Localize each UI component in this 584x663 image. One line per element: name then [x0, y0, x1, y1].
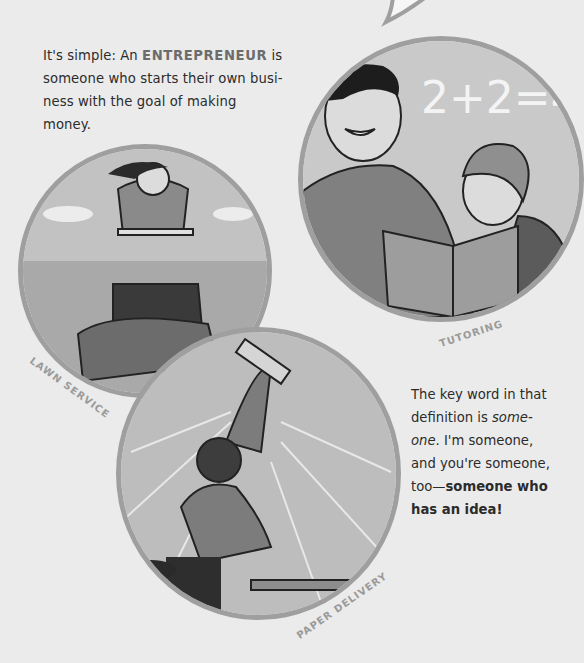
outro-paragraph: The key word in that definition is some-…: [411, 383, 561, 521]
tutoring-label: TUTORING: [438, 318, 504, 349]
paper-delivery-illustration: [116, 327, 401, 620]
entrepreneur-term: ENTREPRENEUR: [142, 48, 267, 63]
intro-paragraph: It's simple: An ENTREPRENEUR is someone …: [43, 44, 283, 136]
math-equation: 2+2=4: [421, 72, 579, 123]
tutoring-illustration: 2+2=4: [298, 36, 584, 322]
speech-bubble-tail: [370, 0, 500, 30]
